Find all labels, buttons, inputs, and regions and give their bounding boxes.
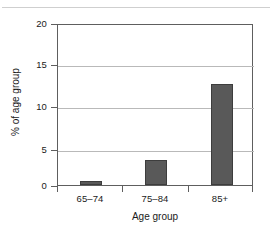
xtick-label-65-74: 65–74 (55, 194, 125, 204)
bar-chart-figure: 20 15 10 5 0 65–74 75–84 85+ Age group %… (0, 0, 272, 241)
page-rule (2, 7, 270, 8)
xtick-mark-left (57, 186, 58, 192)
bar-75-84 (145, 160, 167, 185)
xtick-label-75-84: 75–84 (120, 194, 190, 204)
xtick-mark-right (252, 186, 253, 192)
gridline-15 (58, 66, 254, 67)
ytick-label-0: 0 (7, 181, 47, 191)
ytick-mark-5 (51, 150, 57, 151)
ytick-mark-15 (51, 65, 57, 66)
plot-area (57, 24, 253, 186)
x-axis-title: Age group (57, 212, 253, 222)
ytick-mark-10 (51, 107, 57, 108)
bar-85-plus (211, 84, 233, 185)
ytick-mark-20 (51, 24, 57, 25)
ytick-label-20: 20 (7, 19, 47, 29)
bar-65-74 (80, 181, 102, 185)
xtick-mark-2 (188, 186, 189, 192)
xtick-label-85-plus: 85+ (185, 194, 255, 204)
y-axis-title: % of age group (11, 42, 21, 162)
xtick-mark-1 (122, 186, 123, 192)
